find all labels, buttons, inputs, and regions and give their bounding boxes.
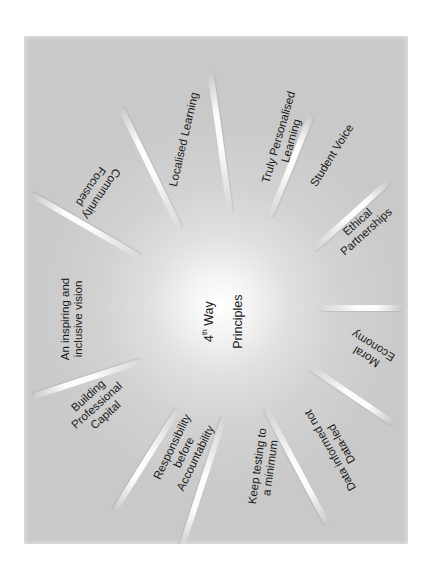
ray-right	[320, 305, 402, 311]
diagram-panel: 4th Way Principles Localised Learning Tr…	[24, 36, 408, 544]
principle-inspiring-vision: An inspiring and inclusive vision	[59, 264, 85, 374]
center-label: 4th Way Principles	[182, 289, 261, 369]
center-label-way: Way	[202, 301, 216, 329]
center-label-principles: Principles	[232, 295, 246, 349]
center-label-ordinal: th	[201, 329, 208, 335]
center-label-number: 4	[202, 335, 216, 342]
